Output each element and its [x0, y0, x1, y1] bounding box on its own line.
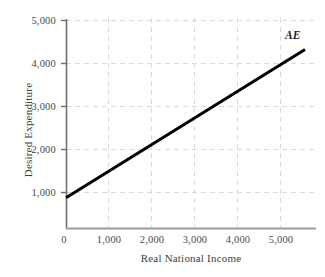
x-tick-label-3000: 3,000 [183, 234, 208, 245]
y-tick-label-5000: 5,000 [6, 15, 56, 26]
y-axis-ticks [61, 21, 66, 193]
x-tick-label-4000: 4,000 [226, 234, 251, 245]
x-tick-label-1000: 1,000 [97, 234, 122, 245]
x-axis-title: Real National Income [66, 252, 316, 264]
x-tick-label-2000: 2,000 [140, 234, 165, 245]
horizontal-gridlines [66, 21, 316, 193]
y-axis-title: Desired Expenditure [22, 50, 34, 210]
series-line-ae [66, 49, 305, 197]
vertical-gridlines [109, 18, 281, 228]
x-tick-label-0: 0 [61, 234, 66, 245]
x-tick-label-5000: 5,000 [269, 234, 294, 245]
series-annotation-ae: AE [285, 29, 300, 41]
chart-container: 5,000 4,000 3,000 2,000 1,000 0 1,000 2,… [0, 0, 325, 277]
